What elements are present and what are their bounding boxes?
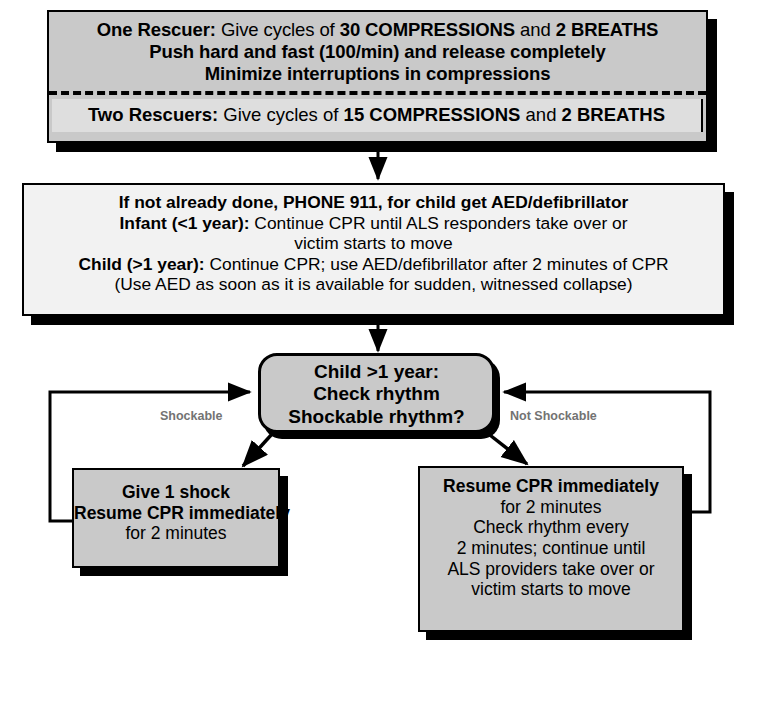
phone-line-2: Infant (<1 year): Continue CPR until ALS… — [24, 213, 723, 234]
one-rescuer-line-3: Minimize interruptions in compressions — [57, 63, 698, 85]
flowchart-canvas: One Rescuer: Give cycles of 30 COMPRESSI… — [0, 0, 777, 704]
panel-one-rescuer: One Rescuer: Give cycles of 30 COMPRESSI… — [49, 12, 706, 90]
dashed-divider — [49, 91, 706, 95]
phone-line-4: Child (>1 year): Continue CPR; use AED/d… — [24, 254, 723, 275]
two-rescuers-text-b: and — [520, 104, 561, 125]
two-rescuers-compressions: 15 COMPRESSIONS — [344, 104, 521, 125]
two-rescuers-label: Two Rescuers: — [88, 104, 218, 125]
decision-line-3: Shockable rhythm? — [261, 406, 492, 428]
two-rescuers-breaths: 2 BREATHS — [562, 104, 665, 125]
panel-two-rescuers: Two Rescuers: Give cycles of 15 COMPRESS… — [52, 99, 703, 132]
one-rescuer-breaths: 2 BREATHS — [556, 19, 659, 40]
box-rescuer-instructions: One Rescuer: Give cycles of 30 COMPRESSI… — [47, 10, 708, 143]
resume-line-3: Check rhythm every — [420, 517, 682, 538]
arrow-decision-to-resume — [486, 432, 527, 464]
arrow-decision-to-shock — [243, 434, 272, 466]
one-rescuer-text-a: Give cycles of — [216, 19, 340, 40]
infant-label: Infant (<1 year): — [120, 213, 250, 233]
edge-label-shockable: Shockable — [160, 409, 223, 423]
shock-line-2: Resume CPR immediately — [74, 503, 278, 524]
shock-line-3: for 2 minutes — [74, 523, 278, 544]
box-resume-cpr: Resume CPR immediately for 2 minutes Che… — [418, 466, 684, 632]
one-rescuer-text-b: and — [515, 19, 556, 40]
edge-label-not-shockable: Not Shockable — [510, 409, 597, 423]
box-give-one-shock: Give 1 shock Resume CPR immediately for … — [72, 468, 280, 568]
resume-line-4: 2 minutes; continue until — [420, 538, 682, 559]
decision-line-1: Child >1 year: — [261, 361, 492, 383]
child-text: Continue CPR; use AED/defibrillator afte… — [205, 254, 669, 274]
one-rescuer-label: One Rescuer: — [97, 19, 216, 40]
resume-line-6: victim starts to move — [420, 579, 682, 600]
phone-line-3: victim starts to move — [24, 233, 723, 254]
one-rescuer-line-2: Push hard and fast (100/min) and release… — [57, 41, 698, 63]
child-label: Child (>1 year): — [78, 254, 204, 274]
resume-line-1: Resume CPR immediately — [420, 476, 682, 497]
one-rescuer-compressions: 30 COMPRESSIONS — [340, 19, 515, 40]
decision-check-rhythm: Child >1 year: Check rhythm Shockable rh… — [258, 353, 495, 433]
two-rescuers-text-a: Give cycles of — [218, 104, 343, 125]
one-rescuer-line-1: One Rescuer: Give cycles of 30 COMPRESSI… — [57, 19, 698, 41]
shock-line-1: Give 1 shock — [74, 482, 278, 503]
resume-line-5: ALS providers take over or — [420, 559, 682, 580]
phone-line-5: (Use AED as soon as it is available for … — [24, 274, 723, 295]
phone-line-1: If not already done, PHONE 911, for chil… — [24, 192, 723, 213]
infant-text: Continue CPR until ALS responders take o… — [250, 213, 628, 233]
box-phone-911-instructions: If not already done, PHONE 911, for chil… — [22, 183, 725, 316]
resume-line-2: for 2 minutes — [420, 497, 682, 518]
decision-line-2: Check rhythm — [261, 383, 492, 405]
